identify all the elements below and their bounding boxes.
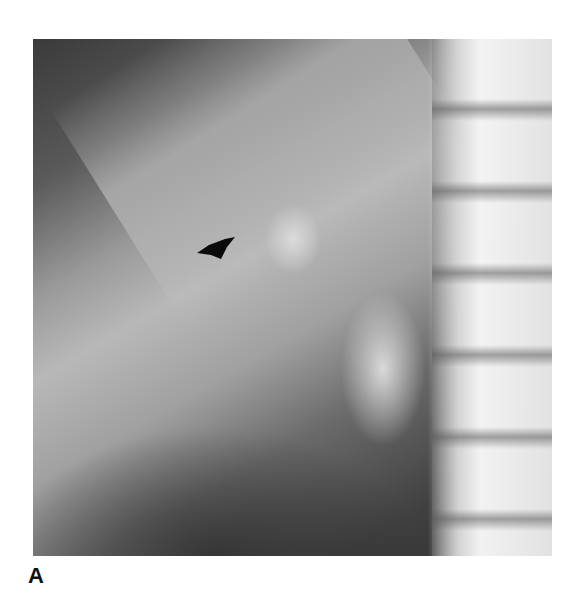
xray-image (33, 39, 552, 556)
spine-region (432, 39, 552, 556)
lower-shadow (33, 336, 453, 556)
panel-label: A (28, 563, 44, 589)
soft-tissue-band (50, 39, 476, 329)
